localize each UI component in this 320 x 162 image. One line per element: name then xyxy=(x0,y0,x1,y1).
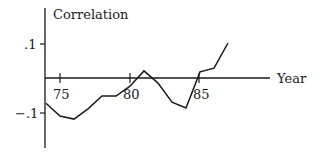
line-chart xyxy=(0,0,320,162)
x-tick-label-80: 80 xyxy=(123,88,140,101)
x-axis-label: Year xyxy=(277,72,306,85)
y-tick-label-pos: .1 xyxy=(24,38,36,51)
y-axis-label: Correlation xyxy=(53,8,128,21)
x-tick-label-75: 75 xyxy=(53,88,70,101)
y-tick-label-neg: −.1 xyxy=(15,107,38,120)
correlation-series-line xyxy=(46,43,228,119)
x-tick-label-85: 85 xyxy=(193,88,210,101)
